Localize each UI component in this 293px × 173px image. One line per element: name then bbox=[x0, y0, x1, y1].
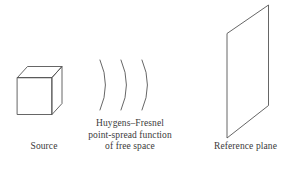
psf-label-line-2: point-spread function bbox=[72, 130, 188, 142]
psf-label-line-1: Huygens–Fresnel bbox=[72, 118, 188, 130]
figure-canvas: Source Huygens–Fresnel point-spread func… bbox=[0, 0, 293, 173]
cube-top-face bbox=[18, 67, 63, 78]
reference-plane-label: Reference plane bbox=[198, 141, 293, 153]
psf-label: Huygens–Fresnel point-spread function of… bbox=[72, 118, 188, 153]
reference-plane-shape bbox=[227, 5, 269, 138]
cube-right-face bbox=[52, 67, 62, 115]
wave-arc-2 bbox=[121, 60, 127, 110]
source-cube-icon bbox=[18, 67, 63, 115]
wave-arc-3 bbox=[142, 60, 148, 110]
wave-arc-1 bbox=[100, 60, 106, 110]
reference-plane-outline bbox=[227, 5, 269, 138]
wave-arcs-icon bbox=[100, 60, 148, 110]
psf-label-line-3: of free space bbox=[72, 141, 188, 153]
cube-front-face bbox=[18, 78, 53, 115]
